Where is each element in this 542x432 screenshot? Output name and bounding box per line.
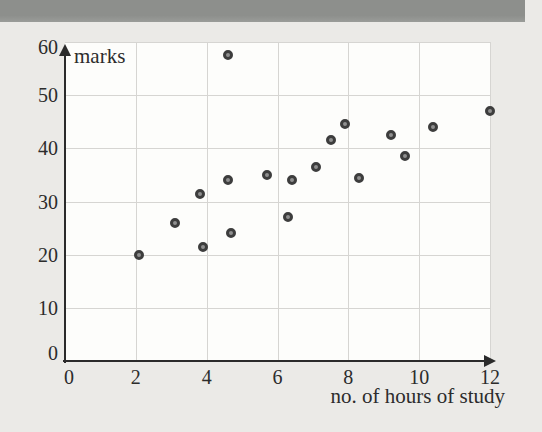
data-point <box>400 151 410 161</box>
data-point <box>134 250 144 260</box>
y-tick-label: 0 <box>18 342 58 364</box>
x-tick-label: 2 <box>116 366 156 388</box>
x-axis-line <box>63 360 486 362</box>
y-tick-label: 10 <box>18 297 58 319</box>
data-point <box>262 170 272 180</box>
page: marks no. of hours of study 010203040506… <box>0 0 542 432</box>
y-axis-line <box>64 48 66 363</box>
data-point <box>485 106 495 116</box>
x-tick-label: 6 <box>258 366 298 388</box>
y-tick-label: 60 <box>18 36 58 58</box>
x-tick-label: 0 <box>49 366 89 388</box>
x-tick-label: 8 <box>328 366 368 388</box>
gridline-horizontal <box>65 42 490 43</box>
gridline-vertical <box>490 42 491 361</box>
y-tick-label: 40 <box>18 137 58 159</box>
data-point <box>195 189 205 199</box>
x-tick-label: 4 <box>187 366 227 388</box>
y-axis-arrow-icon <box>59 44 71 56</box>
data-point <box>170 218 180 228</box>
plot-area <box>65 42 490 361</box>
data-point <box>283 212 293 222</box>
data-point <box>311 162 321 172</box>
y-tick-label: 30 <box>18 191 58 213</box>
y-tick-label: 50 <box>18 84 58 106</box>
y-axis-title: marks <box>74 44 125 69</box>
data-point <box>223 50 233 60</box>
data-point <box>198 242 208 252</box>
data-point <box>428 122 438 132</box>
data-point <box>226 228 236 238</box>
data-point <box>386 130 396 140</box>
data-point <box>326 135 336 145</box>
window-top-bar <box>0 0 525 22</box>
gridline-horizontal <box>65 308 490 309</box>
data-point <box>287 175 297 185</box>
gridline-horizontal <box>65 148 490 149</box>
x-tick-label: 12 <box>470 366 510 388</box>
gridline-horizontal <box>65 255 490 256</box>
x-tick-label: 10 <box>399 366 439 388</box>
data-point <box>354 173 364 183</box>
data-point <box>223 175 233 185</box>
y-tick-label: 20 <box>18 244 58 266</box>
gridline-horizontal <box>65 95 490 96</box>
gridline-horizontal <box>65 202 490 203</box>
